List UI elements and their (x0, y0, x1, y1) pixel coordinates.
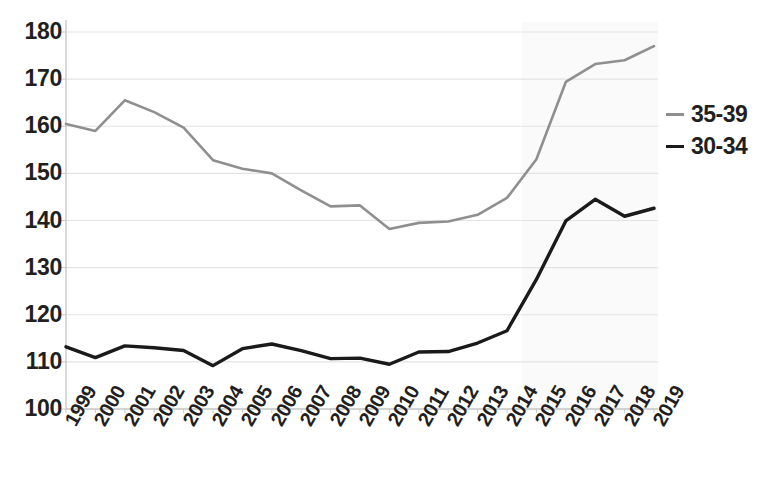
legend-label-35-39: 35-39 (691, 103, 747, 126)
legend-item-35-39[interactable]: 35-39 (666, 98, 758, 130)
y-tick-label-140: 140 (0, 209, 62, 232)
legend-item-30-34[interactable]: 30-34 (666, 130, 758, 162)
y-tick-label-130: 130 (0, 256, 62, 279)
legend-swatch-30-34 (666, 145, 684, 148)
y-tick-label-110: 110 (0, 350, 62, 373)
projection-shaded-band (522, 22, 658, 411)
y-tick-label-160: 160 (0, 114, 62, 137)
y-tick-label-150: 150 (0, 161, 62, 184)
y-tick-label-120: 120 (0, 303, 62, 326)
chart-legend: 35-39 30-34 (666, 98, 758, 162)
legend-swatch-35-39 (666, 113, 684, 116)
chart-container: 100110120130140150160170180 199920002001… (0, 0, 758, 479)
legend-label-30-34: 30-34 (691, 135, 747, 158)
y-tick-label-170: 170 (0, 67, 62, 90)
shaded-band-rect (522, 22, 658, 411)
cropped-title (420, 0, 758, 8)
y-tick-label-100: 100 (0, 397, 62, 420)
y-tick-label-180: 180 (0, 20, 62, 43)
